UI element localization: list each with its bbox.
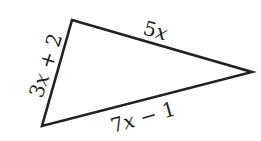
side-label-bottom: 7x − 1 [108,96,178,137]
side-label-left: 3x + 2 [24,30,67,100]
triangle-diagram: 5x 3x + 2 7x − 1 [0,0,261,141]
